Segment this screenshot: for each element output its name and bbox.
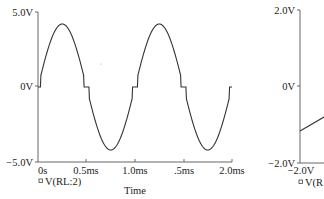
right-plot: 2.0V 0V −2.0V −2.0V V(R xyxy=(268,5,324,189)
right-y-label-top: 2.0V xyxy=(274,5,295,16)
x-label-4: 2.0ms xyxy=(219,165,244,176)
artifact-dot xyxy=(101,64,102,65)
left-plot: 5.0V 0V −5.0V 0s 0.5ms 1.0ms .5ms 2.0ms … xyxy=(6,7,244,196)
right-trace[interactable] xyxy=(300,117,324,131)
legend-square-marker-icon xyxy=(39,179,43,183)
right-x-label: −2.0V xyxy=(288,165,315,176)
x-label-2: 1.0ms xyxy=(122,165,147,176)
y-label-bottom: −5.0V xyxy=(6,157,33,168)
x-label-0: 0s xyxy=(38,165,47,176)
y-label-top: 5.0V xyxy=(12,7,33,18)
chart-canvas: 5.0V 0V −5.0V 0s 0.5ms 1.0ms .5ms 2.0ms … xyxy=(0,0,324,199)
right-legend-label[interactable]: V(R xyxy=(305,177,323,189)
x-label-3: .5ms xyxy=(174,165,194,176)
legend-square-marker-icon xyxy=(299,180,303,184)
y-label-mid: 0V xyxy=(20,81,33,92)
x-label-1: 0.5ms xyxy=(73,165,98,176)
trace-v-rl2[interactable] xyxy=(38,24,232,150)
x-axis-title: Time xyxy=(124,185,146,196)
right-y-label-mid: 0V xyxy=(282,81,295,92)
legend-label[interactable]: V(RL:2) xyxy=(45,176,82,188)
